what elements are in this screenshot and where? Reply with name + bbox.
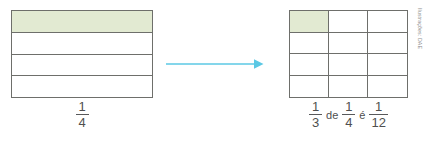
bar-strip bbox=[12, 76, 152, 97]
grid-cell bbox=[368, 33, 407, 55]
fraction-one-twelfth: 1 12 bbox=[369, 100, 387, 129]
grid-cell-shaded bbox=[290, 11, 329, 33]
fraction-numerator: 1 bbox=[343, 100, 354, 114]
fraction-denominator: 4 bbox=[76, 115, 87, 129]
illustration-credit: Ilustrações: DAE bbox=[415, 8, 425, 70]
grid-cell bbox=[290, 33, 329, 55]
fraction-one-fourth: 1 4 bbox=[342, 100, 355, 129]
bar-model-fourths bbox=[11, 10, 153, 98]
grid-cell bbox=[368, 11, 407, 33]
grid-cell bbox=[368, 54, 407, 76]
fraction-denominator: 4 bbox=[343, 115, 354, 129]
fraction-one-third: 1 3 bbox=[309, 100, 322, 129]
right-area-model bbox=[289, 10, 408, 98]
area-model-twelfths bbox=[289, 10, 408, 98]
caption-word-is: é bbox=[359, 109, 365, 121]
fraction-numerator: 1 bbox=[310, 100, 321, 114]
fraction-denominator: 3 bbox=[310, 115, 321, 129]
bar-strip bbox=[12, 55, 152, 77]
fraction-numerator: 1 bbox=[76, 100, 87, 114]
grid-cell bbox=[368, 76, 407, 98]
left-bar-model bbox=[11, 10, 153, 98]
grid-cell bbox=[290, 76, 329, 98]
grid-cell bbox=[329, 76, 368, 98]
left-caption: 1 4 bbox=[11, 100, 153, 129]
grid-cell bbox=[329, 33, 368, 55]
bar-strip-shaded bbox=[12, 11, 152, 33]
fraction-numerator: 1 bbox=[373, 100, 384, 114]
transformation-arrow bbox=[166, 54, 266, 74]
right-caption: 1 3 de 1 4 é 1 12 bbox=[286, 100, 411, 129]
grid-cell bbox=[329, 54, 368, 76]
fraction-denominator: 12 bbox=[369, 115, 387, 129]
fraction-one-fourth: 1 4 bbox=[76, 100, 89, 129]
caption-word-of: de bbox=[326, 109, 338, 121]
grid-cell bbox=[329, 11, 368, 33]
bar-strip bbox=[12, 33, 152, 55]
grid-cell bbox=[290, 54, 329, 76]
